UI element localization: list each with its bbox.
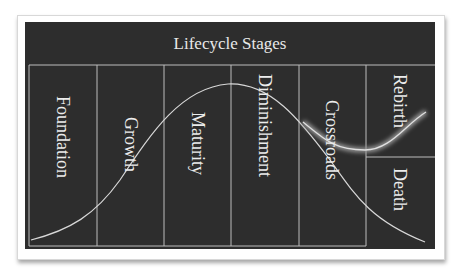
stage-death: Death <box>389 168 410 211</box>
stage-foundation: Foundation <box>52 96 73 178</box>
stage-growth: Growth <box>120 117 141 172</box>
stage-maturity: Maturity <box>187 112 208 175</box>
stage-crossroads: Crossroads <box>321 100 342 180</box>
stage-diminishment: Diminishment <box>254 74 275 177</box>
stage-rebirth: Rebirth <box>389 74 410 128</box>
